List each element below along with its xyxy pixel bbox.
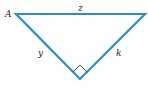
vertex-label-a: A: [4, 9, 12, 19]
triangle-diagram: A z y k: [0, 0, 148, 93]
side-label-z: z: [77, 3, 83, 13]
right-angle-marker: [73, 65, 87, 72]
triangle: [16, 14, 145, 79]
side-label-y: y: [37, 48, 44, 58]
side-label-k: k: [116, 48, 121, 58]
